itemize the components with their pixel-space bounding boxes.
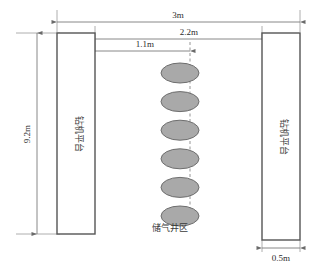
right-platform: 钻机平台 — [262, 33, 300, 240]
dimension-platform-to-center: 2.2m — [95, 27, 262, 39]
dimension-platform-height: 9.2m — [22, 33, 37, 234]
gas-storage-well-group — [161, 63, 199, 226]
right-platform-label: 钻机平台 — [279, 119, 290, 155]
gas-storage-well — [161, 92, 199, 112]
dim-label-platform-to-well: 1.1m — [136, 39, 154, 49]
gas-storage-well — [161, 177, 199, 197]
dimension-platform-to-well: 1.1m — [95, 39, 190, 51]
gas-storage-well — [161, 63, 199, 83]
dim-label-platform-thickness: 0.5m — [272, 253, 290, 263]
engineering-layout-diagram: 3m 2.2m 1.1m 9.2m 0.5m 钻机平台 — [0, 0, 321, 267]
diagram-canvas: 3m 2.2m 1.1m 9.2m 0.5m 钻机平台 — [0, 0, 321, 267]
left-platform-label: 钻机平台 — [74, 116, 85, 152]
dimension-platform-thickness: 0.5m — [262, 248, 300, 263]
gas-storage-well — [161, 149, 199, 169]
gas-storage-well — [161, 120, 199, 140]
dim-label-platform-height: 9.2m — [22, 125, 32, 143]
dim-label-overall-width: 3m — [172, 10, 184, 20]
left-platform: 钻机平台 — [57, 33, 95, 234]
dim-label-platform-to-center: 2.2m — [180, 27, 198, 37]
dimension-overall-width: 3m — [57, 10, 300, 22]
well-area-label: 储气井区 — [152, 222, 188, 233]
